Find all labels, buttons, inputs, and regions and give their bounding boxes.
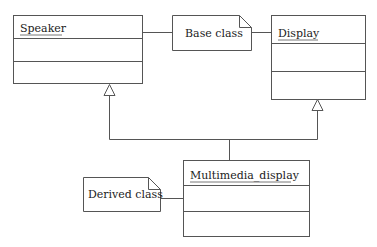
inheritance-arrow-display-icon <box>312 100 323 111</box>
note-text-base-class: Base class <box>185 27 243 40</box>
uml-diagram: Speaker Display Multimedia_display Base … <box>0 0 377 247</box>
generalization-lines <box>110 96 318 161</box>
class-name-multimedia-display: Multimedia_display <box>190 169 300 182</box>
inheritance-arrow-speaker-icon <box>104 85 115 96</box>
class-name-speaker: Speaker <box>20 22 67 35</box>
note-text-derived-class: Derived class <box>88 188 163 201</box>
class-name-display: Display <box>278 27 320 40</box>
